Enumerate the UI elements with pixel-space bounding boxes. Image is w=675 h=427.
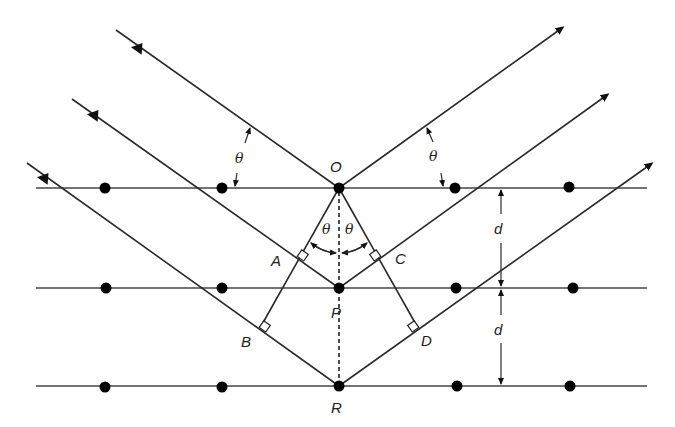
label-B: B <box>241 333 251 350</box>
label-P: P <box>331 304 341 321</box>
atom <box>100 183 111 194</box>
atom-O <box>334 183 345 194</box>
atom-P <box>334 283 345 294</box>
atom <box>568 283 579 294</box>
label-R: R <box>331 399 342 416</box>
atom <box>100 382 111 393</box>
atom <box>217 382 228 393</box>
label-A: A <box>270 252 281 269</box>
atom <box>564 182 575 193</box>
atom <box>217 283 228 294</box>
theta-arrow-upper-right-top <box>427 128 433 142</box>
atom <box>101 283 112 294</box>
reflected-ray-3 <box>339 164 651 386</box>
incident-ray-3 <box>27 163 339 386</box>
theta-arc-right-start <box>342 243 367 253</box>
atom <box>450 183 461 194</box>
theta-label-center-right: θ <box>345 221 354 237</box>
theta-arrow-upper-right-bottom <box>441 173 443 186</box>
d-label-1: d <box>494 220 503 237</box>
theta-label-upper-right: θ <box>429 148 438 164</box>
d-label-2: d <box>494 321 503 338</box>
atom-R <box>334 381 345 392</box>
reflected-ray-1 <box>339 28 562 188</box>
theta-arrow-upper-left-top <box>245 128 250 143</box>
theta-arc-right <box>342 243 367 253</box>
bragg-diffraction-diagram: O A C P B D R θ θ θ θ d d <box>0 0 675 427</box>
atom <box>217 183 228 194</box>
theta-arc-left <box>311 243 336 253</box>
incident-ray-1 <box>116 30 339 188</box>
incident-rays <box>27 30 339 386</box>
label-D: D <box>421 332 432 349</box>
theta-arrow-upper-left-bottom <box>235 173 237 186</box>
label-O: O <box>330 158 342 175</box>
theta-arc-left-start <box>311 243 336 253</box>
label-C: C <box>395 250 406 267</box>
atom <box>451 283 462 294</box>
atom <box>452 381 463 392</box>
atom <box>565 381 576 392</box>
theta-label-upper-left: θ <box>235 150 244 166</box>
theta-label-center-left: θ <box>322 221 331 237</box>
